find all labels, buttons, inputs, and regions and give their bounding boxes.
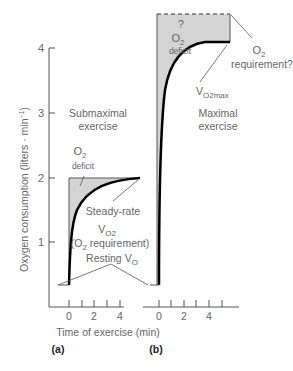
y-tick-4: 4: [38, 42, 44, 54]
deficit-text-b: deficit: [169, 46, 192, 56]
submaximal-title: Submaximal: [69, 107, 127, 119]
x-tick-a-4: 4: [117, 310, 123, 322]
x-tick-a-2: 2: [91, 310, 97, 322]
panel-b: ? O2 deficit O2 requirement? VO2max Maxi…: [143, 14, 293, 355]
y-axis: 4 3 2 1 Oxygen consumption (liters · min…: [18, 42, 55, 307]
x-axis-label: Time of exercise (min): [56, 326, 159, 338]
y-tick-2: 2: [38, 172, 44, 184]
requirement-text-b: requirement?: [231, 58, 293, 70]
question-mark: ?: [178, 18, 184, 30]
steady-vo2-label: VO2: [98, 223, 116, 238]
vo2-curve-b: [159, 42, 230, 285]
o2-requirement-label-b: O2: [252, 44, 266, 59]
y-axis-label: Oxygen consumption (liters · min−1): [18, 107, 30, 272]
submaximal-title-2: exercise: [78, 120, 117, 132]
panel-b-tag: (b): [149, 343, 162, 355]
panel-a-tag: (a): [52, 343, 65, 355]
x-tick-b-0: 0: [156, 310, 162, 322]
maximal-title: Maximal: [198, 107, 237, 119]
x-tick-a-0: 0: [66, 310, 72, 322]
panel-a: Submaximal exercise O2 deficit Steady-ra…: [49, 107, 149, 355]
oxygen-deficit-diagram: 4 3 2 1 Oxygen consumption (liters · min…: [0, 0, 293, 371]
y-tick-1: 1: [38, 236, 44, 248]
x-tick-b-4: 4: [206, 310, 212, 322]
deficit-label-a: O2: [73, 145, 87, 160]
x-tick-b-2: 2: [181, 310, 187, 322]
y-tick-3: 3: [38, 107, 44, 119]
maximal-title-2: exercise: [198, 120, 237, 132]
deficit-text-a: deficit: [72, 161, 95, 171]
vo2max-label: VO2max: [196, 85, 229, 100]
steady-rate-label: Steady-rate: [86, 205, 140, 217]
o2-requirement-label-a: (O2 requirement): [71, 237, 150, 252]
